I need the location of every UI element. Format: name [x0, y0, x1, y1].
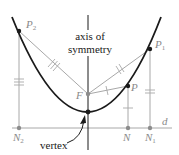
axis-label-line2: symmetry — [68, 43, 112, 55]
vertex-arrowhead-icon — [80, 115, 86, 124]
axis-label-line1: axis of — [75, 30, 105, 42]
point-vertex — [86, 110, 91, 115]
point-N2 — [17, 126, 21, 130]
label-N: N — [122, 131, 131, 143]
point-N — [126, 126, 130, 130]
tick-marks-triple — [14, 59, 60, 85]
label-P2: P2 — [25, 18, 37, 32]
label-P: P — [130, 81, 138, 93]
label-P1: P1 — [154, 38, 166, 52]
point-F — [86, 92, 90, 96]
parabola-diagram: P2 P1 P F N2 N N1 d axis of symmetry ver… — [0, 0, 179, 155]
label-d: d — [162, 115, 168, 127]
label-N2: N2 — [12, 131, 24, 145]
point-N1 — [148, 126, 152, 130]
label-F: F — [75, 89, 83, 101]
label-N1: N1 — [144, 131, 156, 145]
point-P2 — [17, 29, 21, 33]
label-vertex: vertex — [40, 139, 68, 151]
point-P1 — [148, 47, 152, 51]
point-P — [126, 84, 130, 88]
